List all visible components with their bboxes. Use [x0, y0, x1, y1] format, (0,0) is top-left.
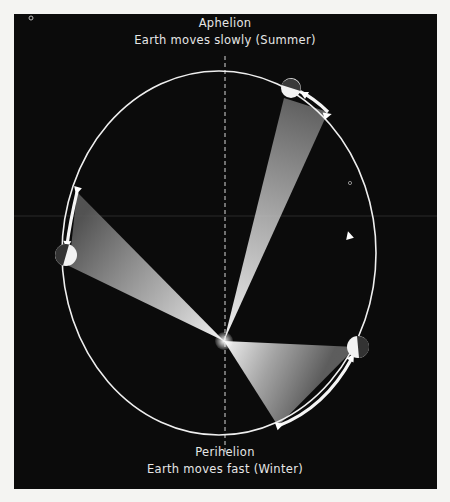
scan-mark — [348, 181, 351, 184]
perihelion-title: Perihelion — [0, 445, 450, 459]
perihelion-subtitle: Earth moves fast (Winter) — [0, 462, 450, 476]
sector-aphelion — [224, 98, 328, 341]
sun-icon — [215, 332, 233, 350]
aphelion-title: Aphelion — [0, 16, 450, 30]
sector-left — [69, 192, 224, 341]
arrow-icon — [344, 230, 354, 240]
earth-left — [55, 244, 77, 266]
orbit-diagram — [0, 0, 450, 502]
earth-near-aphelion — [281, 78, 301, 98]
aphelion-subtitle: Earth moves slowly (Summer) — [0, 33, 450, 47]
earth-near-perihelion — [347, 336, 369, 358]
